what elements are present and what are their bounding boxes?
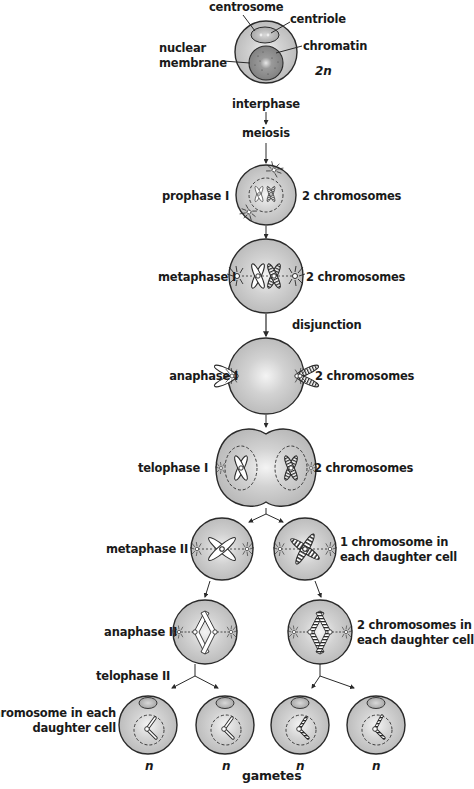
metaphase-i-cell bbox=[227, 239, 305, 313]
stage-anaphase-i: anaphase I bbox=[169, 369, 238, 383]
prophase-i-cell bbox=[236, 159, 296, 225]
label-disjunction: disjunction bbox=[292, 318, 361, 332]
count-metaphase-ii-line2: each daughter cell bbox=[340, 550, 457, 564]
gamete-ploidy-1: n bbox=[145, 759, 154, 773]
count-anaphase-i: 2 chromosomes bbox=[315, 369, 414, 383]
metaphase-ii-right-cell bbox=[273, 518, 337, 580]
count-metaphase-ii-line1: 1 chromosome in bbox=[340, 535, 448, 549]
gamete-cell-3 bbox=[271, 696, 329, 754]
count-telophase-ii-line1: 1 chromosome in each bbox=[0, 706, 116, 720]
label-chromatin: chromatin bbox=[303, 39, 367, 53]
gamete-cell-1 bbox=[119, 696, 177, 754]
anaphase-ii-right-cell bbox=[288, 600, 353, 664]
gamete-ploidy-2: n bbox=[222, 759, 231, 773]
count-telophase-i: 2 chromosomes bbox=[314, 461, 413, 475]
count-anaphase-ii-line2: each daughter cell bbox=[357, 633, 474, 647]
stage-prophase-i: prophase I bbox=[162, 189, 229, 203]
count-telophase-ii-line2: daughter cell bbox=[33, 721, 116, 735]
label-centrosome: centrosome bbox=[209, 0, 283, 14]
stage-metaphase-i: metaphase I bbox=[158, 270, 236, 284]
count-anaphase-ii-line1: 2 chromosomes in bbox=[357, 618, 472, 632]
stage-metaphase-ii: metaphase II bbox=[106, 542, 188, 556]
gamete-cell-4 bbox=[347, 696, 405, 754]
telophase-i-cell bbox=[215, 429, 317, 506]
stage-anaphase-ii: anaphase II bbox=[104, 625, 177, 639]
count-prophase-i: 2 chromosomes bbox=[302, 189, 401, 203]
stage-telophase-ii: telophase II bbox=[96, 669, 170, 683]
label-interphase: interphase bbox=[232, 97, 300, 111]
gamete-ploidy-4: n bbox=[372, 759, 381, 773]
metaphase-ii-left-cell bbox=[190, 518, 254, 580]
label-nuclear-line1: nuclear bbox=[159, 41, 206, 55]
centrosome-shape bbox=[251, 27, 279, 43]
label-meiosis: meiosis bbox=[242, 126, 290, 140]
stage-telophase-i: telophase I bbox=[138, 461, 208, 475]
label-gametes: gametes bbox=[242, 769, 301, 783]
label-nuclear-line2: membrane bbox=[159, 56, 227, 70]
label-centriole: centriole bbox=[290, 12, 346, 26]
label-ploidy-2n: 2n bbox=[315, 64, 332, 78]
count-metaphase-i: 2 chromosomes bbox=[306, 270, 405, 284]
anaphase-ii-left-cell bbox=[173, 600, 238, 664]
gamete-cell-2 bbox=[196, 696, 254, 754]
nucleus-shape bbox=[249, 46, 283, 80]
